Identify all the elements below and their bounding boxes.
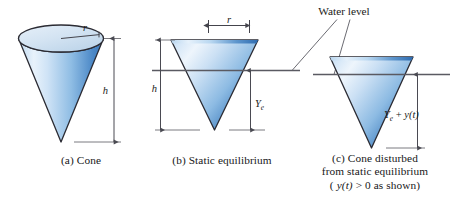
caption-panel-a: (a) Cone [18, 154, 144, 167]
caption-panel-c-line3: ( y(t) > 0 as shown) [296, 179, 454, 192]
caption-panel-c-line3-pre: ( [330, 179, 337, 191]
cone-b-draft-subscript: e [261, 103, 265, 112]
water-level-label: Water level [318, 5, 369, 17]
caption-panel-b: (b) Static equilibrium [146, 154, 298, 167]
caption-panel-c-line1: (c) Cone disturbed [296, 152, 454, 165]
cone-b-top-face [171, 40, 258, 44]
caption-panel-c: (c) Cone disturbed from static equilibri… [296, 152, 454, 192]
cone-a-body [19, 39, 104, 143]
panel-c-cone: Ye + y(t) [313, 57, 450, 148]
caption-panel-c-line3-math: y(t) [337, 179, 353, 191]
cone-c-draft-perturbation: y(t) [403, 109, 419, 121]
cone-b-radius-label: r [227, 14, 232, 25]
cone-b-body [171, 40, 258, 130]
cone-c-draft-plus: + [393, 109, 404, 120]
cone-c-top-face [330, 57, 413, 60]
cone-c-body [330, 57, 413, 148]
figure-container: r h r h [0, 0, 456, 214]
water-level-leader-left [292, 20, 337, 71]
caption-panel-c-line3-post: > 0 as shown) [353, 179, 420, 191]
cone-a-height-label: h [103, 85, 108, 96]
panel-b-cone: r h Ye [152, 14, 300, 130]
cone-c-draft-label: Ye + y(t) [384, 109, 419, 123]
cone-b-height-label: h [152, 83, 157, 94]
panel-a-cone: r h [19, 22, 122, 142]
cone-b-draft-label: Ye [255, 98, 265, 112]
caption-panel-c-line2: from static equilibrium [296, 165, 454, 178]
